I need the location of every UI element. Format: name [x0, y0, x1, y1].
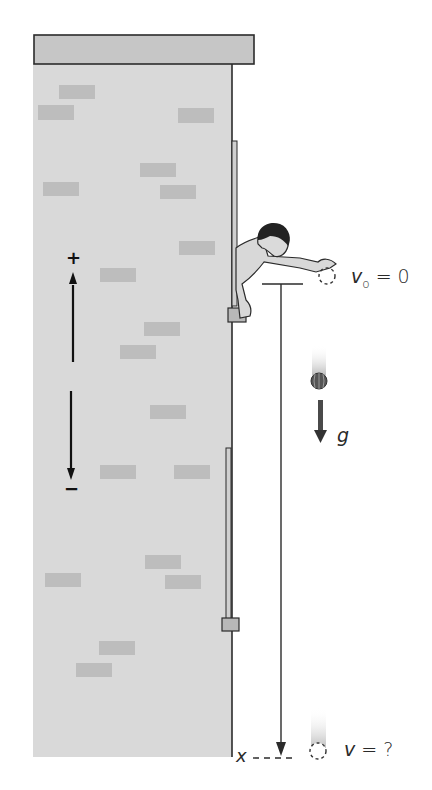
brick: [99, 641, 135, 655]
height-arrowhead: [276, 742, 286, 756]
brick: [145, 555, 181, 569]
initial-velocity-value: = 0: [376, 265, 410, 287]
lower-ledge-post: [226, 448, 231, 620]
final-velocity-value: = ?: [361, 738, 393, 760]
ball-final-position: [310, 743, 326, 759]
brick: [38, 105, 74, 120]
ball-final-trail: [311, 708, 326, 748]
brick: [160, 185, 196, 199]
gravity-label: g: [337, 424, 349, 446]
gravity-arrow-icon: [314, 400, 327, 443]
brick: [100, 465, 136, 479]
brick: [174, 465, 210, 479]
falling-ball: [311, 373, 327, 389]
final-velocity-label: v = ?: [344, 738, 393, 760]
initial-velocity-subscript: o: [362, 277, 369, 291]
initial-velocity-label: vo = 0: [351, 265, 410, 291]
brick: [120, 345, 156, 359]
brick: [100, 268, 136, 282]
brick: [144, 322, 180, 336]
initial-velocity-symbol: v: [351, 265, 362, 287]
ball-motion-trail: [312, 345, 326, 375]
minus-sign-label: −: [64, 478, 79, 499]
brick: [150, 405, 186, 419]
final-velocity-symbol: v: [344, 738, 355, 760]
ball-initial-position: [319, 268, 335, 284]
brick: [140, 163, 176, 177]
brick: [59, 85, 95, 99]
brick: [43, 182, 79, 196]
plus-sign-label: +: [66, 247, 81, 268]
position-x-label: x: [236, 745, 247, 766]
brick: [179, 241, 215, 255]
brick: [165, 575, 201, 589]
brick: [76, 663, 112, 677]
roof-slab: [34, 35, 254, 64]
brick: [45, 573, 81, 587]
falling-ball-diagram: [0, 0, 432, 790]
brick: [178, 108, 214, 123]
lower-ledge-block: [222, 618, 239, 631]
